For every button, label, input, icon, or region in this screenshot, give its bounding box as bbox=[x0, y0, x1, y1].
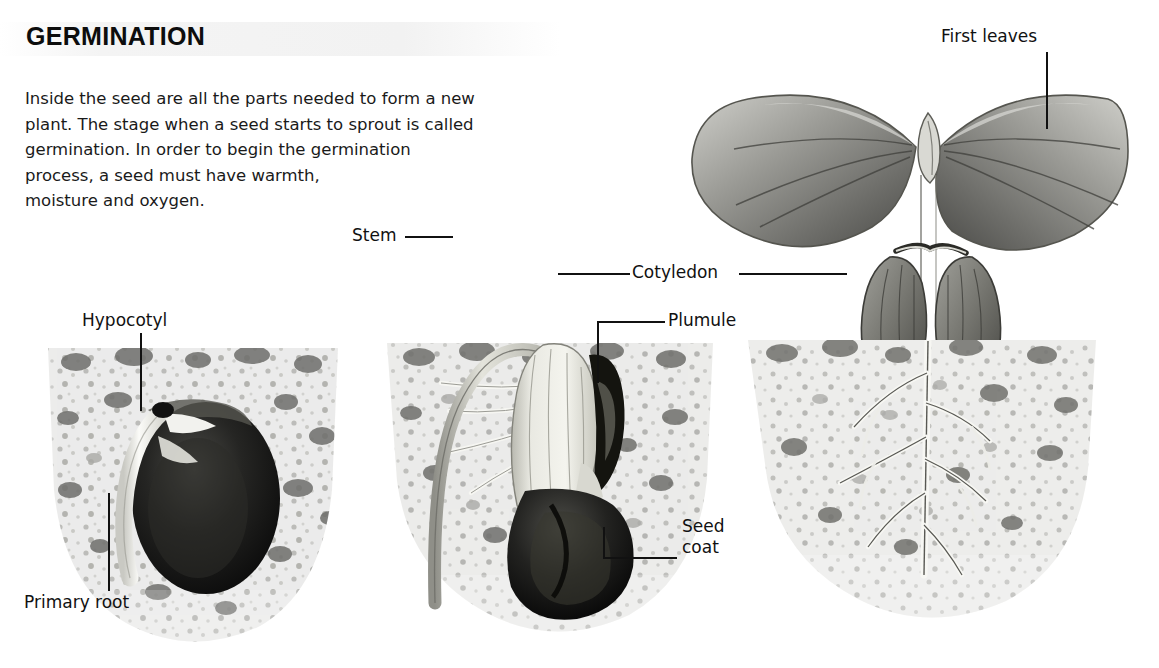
label-stem: Stem bbox=[352, 225, 396, 246]
intro-paragraph: Inside the seed are all the parts needed… bbox=[25, 86, 505, 214]
leader-stem bbox=[405, 236, 453, 238]
stage-3-drawing bbox=[690, 55, 1130, 655]
leader-seed-coat-v bbox=[603, 527, 605, 558]
seed-2 bbox=[507, 489, 633, 620]
panel-stage-3 bbox=[690, 55, 1130, 655]
leader-hypocotyl bbox=[140, 333, 142, 411]
leader-plumule-h bbox=[597, 321, 665, 323]
leader-seed-coat-h bbox=[603, 557, 677, 559]
label-primary-root: Primary root bbox=[24, 592, 129, 613]
illustration-page: GERMINATION Inside the seed are all the … bbox=[0, 0, 1159, 668]
leader-primary-root bbox=[108, 493, 110, 591]
leader-first-leaves bbox=[1046, 52, 1048, 129]
soil-block-3 bbox=[730, 330, 1130, 651]
label-hypocotyl: Hypocotyl bbox=[82, 310, 167, 331]
first-leaves-3 bbox=[692, 95, 1128, 250]
leader-plumule-v bbox=[597, 321, 599, 383]
page-title: GERMINATION bbox=[26, 22, 205, 51]
leader-cotyledon-left bbox=[558, 273, 630, 275]
label-first-leaves: First leaves bbox=[941, 26, 1037, 47]
